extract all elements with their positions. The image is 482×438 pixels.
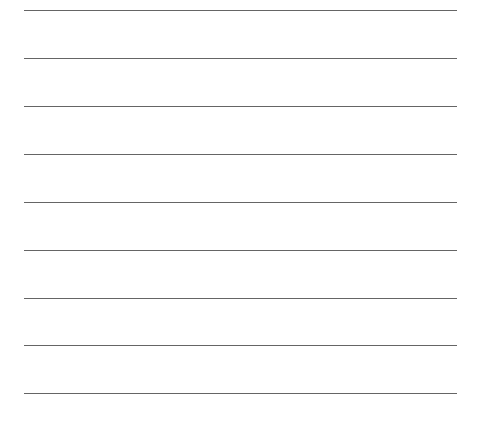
ruled-line bbox=[24, 106, 457, 107]
ruled-line bbox=[24, 10, 457, 11]
ruled-line bbox=[24, 250, 457, 251]
ruled-line bbox=[24, 58, 457, 59]
ruled-line bbox=[24, 154, 457, 155]
ruled-line bbox=[24, 202, 457, 203]
ruled-line bbox=[24, 345, 457, 346]
ruled-line bbox=[24, 298, 457, 299]
ruled-line bbox=[24, 393, 457, 394]
